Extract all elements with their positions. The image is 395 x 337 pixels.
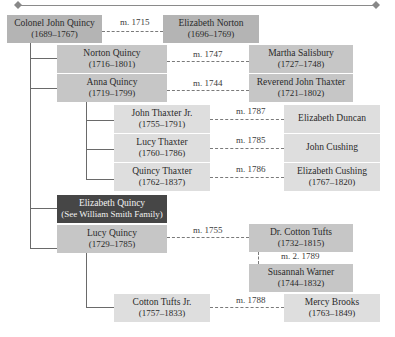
person-dates: (1763–1849) xyxy=(284,308,380,319)
person-name: Dr. Cotton Tufts xyxy=(249,227,353,238)
person-name: Elizabeth Norton xyxy=(163,18,259,29)
person-cotton-tufts-jr: Cotton Tufts Jr. (1757–1833) xyxy=(114,294,210,322)
person-name: Martha Salisbury xyxy=(249,48,353,59)
marriage-line xyxy=(167,90,249,91)
right-finial-icon xyxy=(372,1,380,9)
child-connector xyxy=(30,208,57,209)
person-quincy-thaxter: Quincy Thaxter (1762–1837) xyxy=(114,163,210,191)
marriage-label: m. 1786 xyxy=(236,164,266,174)
person-dates: (1721–1802) xyxy=(249,88,353,99)
person-anna-quincy: Anna Quincy (1719–1799) xyxy=(57,74,167,102)
child-connector xyxy=(86,179,114,180)
person-cotton-tufts: Dr. Cotton Tufts (1732–1815) xyxy=(249,224,353,252)
person-name: Cotton Tufts Jr. xyxy=(114,297,210,308)
person-dates: (1760–1786) xyxy=(114,148,210,159)
person-dates: (1716–1801) xyxy=(57,59,167,70)
cross-reference-note: (See William Smith Family) xyxy=(57,209,167,220)
person-dates: (1762–1837) xyxy=(114,177,210,188)
person-mercy-brooks: Mercy Brooks (1763–1849) xyxy=(284,294,380,322)
child-connector xyxy=(86,149,114,150)
person-name: Quincy Thaxter xyxy=(114,166,210,177)
marriage-line xyxy=(102,31,163,32)
person-john-thaxter-jr: John Thaxter Jr. (1755–1791) xyxy=(114,105,210,133)
person-dates: (1732–1815) xyxy=(249,238,353,249)
person-name: Lucy Quincy xyxy=(57,228,167,239)
marriage-line xyxy=(210,177,284,178)
person-name: Elizabeth Cushing xyxy=(284,166,380,177)
descent-line xyxy=(86,102,87,179)
person-dates: (1757–1833) xyxy=(114,308,210,319)
descent-line xyxy=(86,253,87,308)
marriage-label: m. 1788 xyxy=(236,295,266,305)
person-elizabeth-cushing: Elizabeth Cushing (1767–1820) xyxy=(284,163,380,191)
marriage-line xyxy=(167,61,249,62)
marriage-label: m. 1755 xyxy=(193,225,223,235)
person-name: Elizabeth Quincy xyxy=(57,198,167,209)
person-elizabeth-duncan: Elizabeth Duncan xyxy=(284,105,380,133)
person-susannah-warner: Susannah Warner (1744–1832) xyxy=(249,264,353,292)
left-finial-icon xyxy=(14,1,22,9)
child-connector xyxy=(30,248,57,249)
descent-line xyxy=(30,43,31,248)
person-john-cushing: John Cushing xyxy=(284,134,380,162)
person-dates: (1727–1748) xyxy=(249,59,353,70)
person-dates: (1689–1767) xyxy=(7,29,102,40)
child-connector xyxy=(86,120,114,121)
marriage-label: m. 1715 xyxy=(120,17,150,27)
marriage-line xyxy=(210,119,284,120)
marriage-label: m. 1747 xyxy=(193,49,223,59)
person-dates: (1767–1820) xyxy=(284,177,380,188)
person-name: Norton Quincy xyxy=(57,48,167,59)
person-dates: (1744–1832) xyxy=(249,278,353,289)
child-connector xyxy=(30,88,57,89)
second-marriage-line xyxy=(258,252,259,264)
marriage-line xyxy=(210,148,284,149)
header-rule xyxy=(18,5,375,6)
person-name: Elizabeth Duncan xyxy=(284,113,380,124)
person-john-quincy: Colonel John Quincy (1689–1767) xyxy=(7,15,102,43)
person-name: Anna Quincy xyxy=(57,77,167,88)
person-name: Mercy Brooks xyxy=(284,297,380,308)
person-name: Reverend John Thaxter xyxy=(249,77,353,88)
person-dates: (1755–1791) xyxy=(114,119,210,130)
person-name: John Cushing xyxy=(284,142,380,153)
person-lucy-thaxter: Lucy Thaxter (1760–1786) xyxy=(114,134,210,162)
child-connector xyxy=(30,58,57,59)
person-name: Susannah Warner xyxy=(249,267,353,278)
person-norton-quincy: Norton Quincy (1716–1801) xyxy=(57,45,167,73)
child-connector xyxy=(86,307,114,308)
person-name: Lucy Thaxter xyxy=(114,137,210,148)
person-lucy-quincy: Lucy Quincy (1729–1785) xyxy=(57,225,167,253)
person-name: John Thaxter Jr. xyxy=(114,108,210,119)
person-dates: (1696–1769) xyxy=(163,29,259,40)
marriage-line xyxy=(167,237,249,238)
person-martha-salisbury: Martha Salisbury (1727–1748) xyxy=(249,45,353,73)
person-dates: (1729–1785) xyxy=(57,239,167,250)
marriage-line xyxy=(210,307,284,308)
marriage-label: m. 1785 xyxy=(236,135,266,145)
marriage-label: m. 2. 1789 xyxy=(281,251,320,261)
person-dates: (1719–1799) xyxy=(57,88,167,99)
person-elizabeth-norton: Elizabeth Norton (1696–1769) xyxy=(163,15,259,43)
marriage-label: m. 1787 xyxy=(236,106,266,116)
person-elizabeth-quincy[interactable]: Elizabeth Quincy (See William Smith Fami… xyxy=(57,195,167,223)
marriage-label: m. 1744 xyxy=(193,78,223,88)
person-name: Colonel John Quincy xyxy=(7,18,102,29)
person-john-thaxter: Reverend John Thaxter (1721–1802) xyxy=(249,74,353,102)
